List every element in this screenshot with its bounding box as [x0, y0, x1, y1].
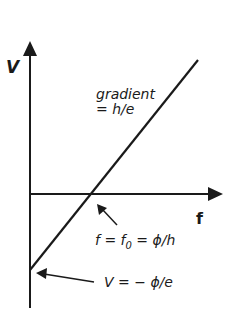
- x-intercept-prefix: f = f: [95, 232, 126, 248]
- y-axis: [23, 41, 37, 308]
- arrow-icon: [36, 268, 47, 279]
- x-intercept-pointer: [97, 204, 117, 225]
- gradient-value: = h/e: [96, 102, 134, 116]
- y-intercept-label: V = − ϕ/e: [104, 275, 173, 289]
- y-axis-arrow-icon: [23, 41, 37, 56]
- x-axis-arrow-icon: [208, 187, 223, 201]
- gradient-label: gradient: [96, 87, 155, 101]
- x-intercept-label: f = f0 = ϕ/h: [95, 233, 175, 251]
- x-intercept-suffix: = ϕ/h: [132, 232, 175, 248]
- y-intercept-pointer: [36, 268, 94, 282]
- x-axis: [30, 187, 223, 201]
- x-axis-label: f: [196, 211, 203, 227]
- y-axis-label: V: [6, 59, 19, 76]
